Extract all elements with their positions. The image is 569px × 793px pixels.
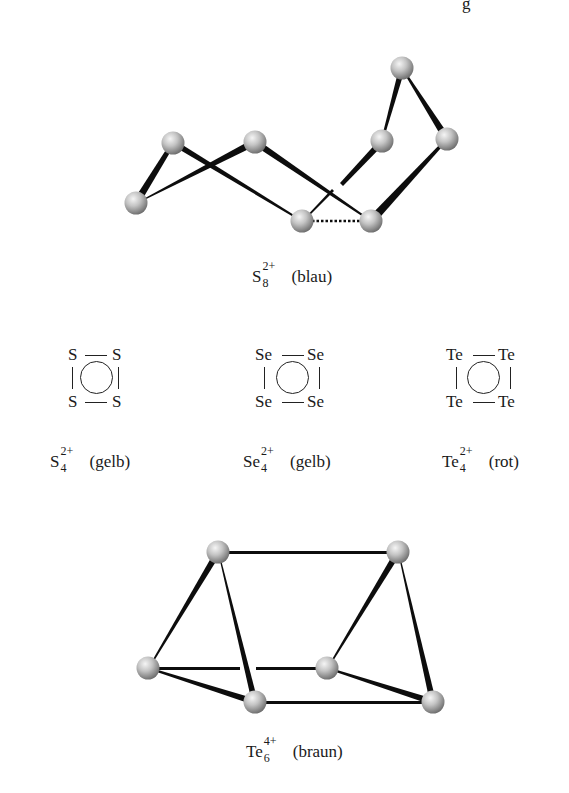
bond-left <box>456 367 457 389</box>
bond-p1-p2 <box>218 551 398 554</box>
ring-atom: S <box>112 393 121 410</box>
atom-te <box>316 657 339 680</box>
bond-left <box>264 367 265 389</box>
ring-atom: S <box>68 393 77 410</box>
s8-formula: S2+8 <box>252 268 261 285</box>
bond-top <box>85 355 107 356</box>
bond-right <box>510 367 511 389</box>
ring-atom: Te <box>446 393 463 410</box>
bond-p4-p6 <box>327 667 434 705</box>
te4-label: Te2+4(rot) <box>442 453 519 470</box>
bond-p3-p4-left <box>148 667 240 670</box>
ring-atom: Se <box>255 346 272 363</box>
atom-s <box>391 57 414 80</box>
atom-s <box>360 210 383 233</box>
bond-bottom <box>282 402 304 403</box>
atom-te <box>422 691 445 714</box>
te6-label: Te4+6(braun) <box>246 743 343 760</box>
te6-formula: Te4+6 <box>246 743 263 760</box>
s4-label: S2+4(gelb) <box>50 453 130 470</box>
atom-te <box>137 657 160 680</box>
s8-color: (blau) <box>291 267 332 286</box>
bond-top <box>473 355 495 356</box>
se4-label: Se2+4(gelb) <box>243 453 331 470</box>
atom-s <box>436 128 459 151</box>
atom-s <box>291 210 314 233</box>
atom-te <box>207 541 230 564</box>
bond-p5-p6 <box>255 701 433 704</box>
ring-atom: Se <box>307 346 324 363</box>
bond-p3-p5 <box>148 667 256 705</box>
bond-p4-p2 <box>327 551 400 669</box>
ring-atom: Se <box>307 393 324 410</box>
se4-ring-diagram: Se Se Se Se <box>255 346 335 416</box>
atom-te <box>244 691 267 714</box>
te4-ring-diagram: Te Te Te Te <box>446 346 526 416</box>
aromatic-circle <box>467 361 500 394</box>
s4-ring-diagram: S S S S <box>68 346 128 416</box>
bond-right <box>118 367 119 389</box>
bond-top <box>282 355 304 356</box>
ring-atom: Se <box>255 393 272 410</box>
aromatic-circle <box>276 361 309 394</box>
s8-atoms <box>125 57 459 233</box>
bond-bottom <box>473 402 495 403</box>
atom-te <box>387 541 410 564</box>
aromatic-circle <box>80 361 113 394</box>
te6-atoms <box>137 541 445 714</box>
bond-p2-p6 <box>398 552 436 703</box>
atom-s <box>162 132 185 155</box>
ring-atom: S <box>112 346 121 363</box>
bond-left <box>72 367 73 389</box>
atom-s <box>125 192 148 215</box>
te6-color: (braun) <box>293 742 343 761</box>
bond-p1-p5 <box>218 552 258 703</box>
atom-s <box>371 130 394 153</box>
bond-right <box>319 367 320 389</box>
te6-bonds <box>148 551 436 705</box>
ring-atom: Te <box>446 346 463 363</box>
ring-atom: S <box>68 346 77 363</box>
atom-s <box>244 131 267 154</box>
ring-atom: Te <box>498 393 515 410</box>
bond-p3-p1 <box>148 551 220 669</box>
ring-atom: Te <box>498 346 515 363</box>
bond-bottom <box>85 402 107 403</box>
s8-label: S2+8(blau) <box>252 268 332 285</box>
